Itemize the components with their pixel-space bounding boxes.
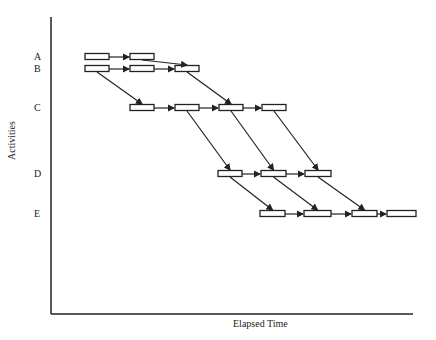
activity-box xyxy=(130,105,154,111)
activity-box xyxy=(175,105,199,111)
dependency-arrow xyxy=(187,111,230,170)
dependency-arrow xyxy=(230,177,273,210)
activity-label-d: D xyxy=(34,168,41,179)
activity-label-a: A xyxy=(34,51,41,62)
schedule-diagram xyxy=(0,0,436,340)
dependency-arrow xyxy=(318,177,365,210)
activity-label-c: C xyxy=(34,102,41,113)
activity-box xyxy=(130,66,154,72)
activity-box xyxy=(175,66,199,72)
activity-box xyxy=(262,105,286,111)
dependency-arrow xyxy=(142,60,187,65)
activity-box xyxy=(387,211,416,217)
dependency-arrow xyxy=(274,111,318,170)
y-axis-label: Activities xyxy=(6,121,17,160)
activity-box xyxy=(85,54,109,60)
activity-box xyxy=(130,54,154,60)
dependency-arrow xyxy=(231,111,274,170)
activity-box xyxy=(260,211,285,217)
dependency-arrow xyxy=(187,72,231,104)
activity-label-b: B xyxy=(34,63,41,74)
activity-box xyxy=(304,211,331,217)
activity-box xyxy=(352,211,377,217)
dependency-arrow xyxy=(274,177,318,210)
activity-box xyxy=(261,171,286,177)
activity-box xyxy=(218,171,242,177)
dependency-arrow xyxy=(97,72,142,104)
activity-label-e: E xyxy=(34,208,40,219)
x-axis-label: Elapsed Time xyxy=(233,318,288,329)
activity-box xyxy=(219,105,243,111)
activity-box xyxy=(85,66,109,72)
activity-box xyxy=(305,171,331,177)
